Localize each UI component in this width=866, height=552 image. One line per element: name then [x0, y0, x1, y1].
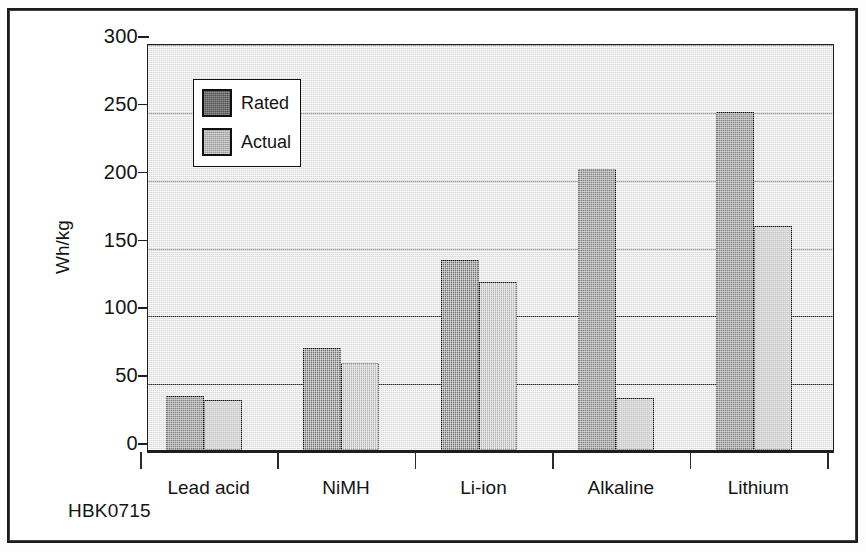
y-axis-tick-labels: 050100150200250300: [78, 11, 138, 552]
x-tick-mark: [415, 452, 417, 469]
y-tick-label: 250: [104, 94, 138, 114]
y-tick-label: 150: [104, 230, 138, 250]
bar-li-ion-rated: [441, 260, 479, 450]
figure-container: Wh/kg 050100150200250300 Lead acidNiMHLi…: [0, 0, 866, 552]
y-tick-label: 0: [127, 433, 138, 453]
bar-li-ion-actual: [479, 282, 517, 450]
x-category-label-nimh: NiMH: [277, 477, 414, 499]
figure-frame: Wh/kg 050100150200250300 Lead acidNiMHLi…: [7, 8, 858, 543]
x-tick-mark: [552, 452, 554, 469]
bar-lithium-rated: [716, 112, 754, 450]
bar-lead-acid-rated: [166, 396, 204, 450]
bar-lead-acid-actual: [204, 400, 242, 450]
bar-nimh-actual: [341, 363, 379, 450]
y-axis-title: Wh/kg: [52, 187, 74, 307]
bar-alkaline-rated: [578, 169, 616, 450]
bar-alkaline-actual: [616, 398, 654, 450]
legend-item-rated: Rated: [202, 89, 289, 117]
x-axis-line: [147, 451, 834, 453]
x-tick-mark: [140, 452, 142, 469]
x-tick-mark: [277, 452, 279, 469]
legend-swatch-rated-icon: [202, 89, 232, 117]
legend-label-rated: Rated: [241, 94, 289, 112]
y-tick-label: 50: [115, 365, 138, 385]
bar-nimh-rated: [303, 348, 341, 450]
y-tick-mark: [138, 36, 149, 38]
x-category-label-lithium: Lithium: [690, 477, 827, 499]
figure-id-label: HBK0715: [68, 500, 151, 522]
x-tick-mark: [690, 452, 692, 469]
x-category-label-lead-acid: Lead acid: [140, 477, 277, 499]
x-category-label-alkaline: Alkaline: [552, 477, 689, 499]
chart-legend: Rated Actual: [193, 79, 301, 167]
legend-label-actual: Actual: [241, 133, 291, 151]
y-tick-label: 100: [104, 297, 138, 317]
legend-swatch-actual-icon: [202, 128, 232, 156]
bar-lithium-actual: [754, 226, 792, 450]
y-tick-label: 200: [104, 162, 138, 182]
y-tick-label: 300: [104, 26, 138, 46]
x-tick-mark: [827, 452, 829, 469]
legend-item-actual: Actual: [202, 128, 291, 156]
x-category-label-li-ion: Li-ion: [415, 477, 552, 499]
